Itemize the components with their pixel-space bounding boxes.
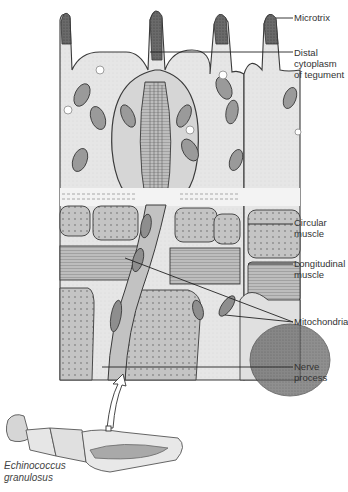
label-circular-muscle: Circularmuscle bbox=[294, 217, 327, 239]
label-microtrix: Microtrix bbox=[294, 12, 330, 23]
organism-caption: Echinococcusgranulosus bbox=[4, 460, 66, 484]
label-distal-cytoplasm: Distal cytoplasmof tegument bbox=[294, 47, 346, 80]
label-longitudinal-muscle: Longitudinalmuscle bbox=[294, 258, 345, 280]
label-nerve-process: Nerve process bbox=[294, 361, 346, 383]
sensory-ending bbox=[112, 70, 199, 205]
label-mitochondria: Mitochondria bbox=[294, 316, 348, 327]
magnify-arrow bbox=[107, 374, 126, 428]
basal-lamina bbox=[60, 188, 300, 206]
